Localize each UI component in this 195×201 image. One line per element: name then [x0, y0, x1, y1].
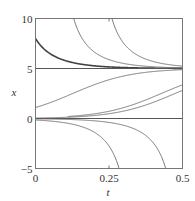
solution-curve: [36, 39, 183, 69]
y-axis-label: x: [11, 86, 17, 98]
chart: 00.250.5−50510 t x: [0, 0, 195, 201]
curves-group: [36, 19, 183, 169]
x-tick-label: 0: [33, 172, 39, 184]
solution-curve: [112, 19, 183, 67]
x-tick-label: 0.5: [176, 172, 190, 184]
x-axis-label: t: [106, 186, 110, 198]
y-tick-label: −5: [21, 163, 33, 175]
solution-curve: [36, 90, 183, 118]
solution-curve: [68, 85, 183, 117]
solution-curve: [36, 120, 121, 169]
x-tick-label: 0.25: [99, 172, 119, 184]
solution-curve: [36, 119, 167, 169]
y-tick-label: 5: [27, 63, 33, 75]
y-tick-label: 0: [27, 113, 33, 125]
solution-curve: [74, 19, 183, 68]
y-tick-label: 10: [22, 13, 34, 25]
solution-curve: [36, 70, 183, 108]
